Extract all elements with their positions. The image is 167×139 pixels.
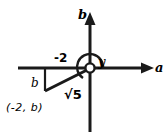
horizontal-axis-arrowhead (141, 63, 154, 74)
opposite-leg-label: b (31, 77, 39, 89)
adjacent-leg-label: -2 (54, 52, 67, 64)
horizontal-axis-label: a (155, 61, 163, 74)
hypotenuse-label: √5 (64, 88, 82, 101)
math-diagram: b a -2 b y √5 (-2, b) (0, 0, 167, 139)
point-coordinate-label: (-2, b) (6, 102, 43, 113)
origin-point-marker (85, 63, 94, 72)
vertical-axis-label: b (78, 8, 87, 21)
angle-label: y (98, 56, 105, 68)
